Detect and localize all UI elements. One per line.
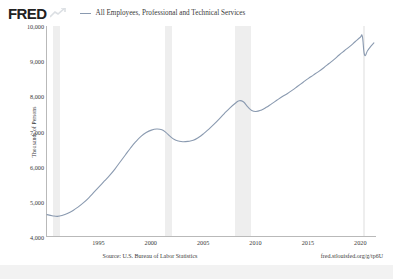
chart-legend: All Employees, Professional and Technica…: [80, 9, 245, 17]
y-axis-tick-label: 8,000: [30, 93, 44, 100]
series-path-employees: [47, 35, 374, 217]
y-axis-title: Thousands of Persons: [31, 106, 37, 157]
y-axis-tick-label: 6,000: [30, 163, 44, 170]
bottom-margin-strip: [0, 265, 393, 279]
x-axis: 199520002005201020152020: [46, 239, 376, 251]
source-note: Source: U.S. Bureau of Labor Statistics: [0, 253, 300, 259]
y-axis-tick-label: 4,000: [30, 234, 44, 241]
plot-area: [46, 26, 376, 237]
y-axis-tick-label: 5,000: [30, 198, 44, 205]
series-line-chart: [47, 26, 376, 236]
y-axis-title-holder: Thousands of Persons: [12, 26, 22, 237]
legend-series-label: All Employees, Professional and Technica…: [95, 9, 245, 17]
x-axis-tick-label: 2010: [249, 239, 261, 246]
y-axis-tick-label: 9,000: [30, 58, 44, 65]
chart-header: FRED All Employees, Professional and Tec…: [8, 4, 245, 22]
fred-trend-arrow-icon: [50, 8, 66, 19]
x-axis-tick-label: 2020: [354, 239, 366, 246]
fred-logo: FRED: [8, 6, 46, 21]
x-axis-tick-label: 1995: [92, 239, 104, 246]
fred-permalink[interactable]: fred.stlouisfed.org/g/tp6U: [321, 253, 383, 259]
x-axis-tick-label: 2015: [302, 239, 314, 246]
x-axis-tick-label: 2005: [197, 239, 209, 246]
line-swatch-icon: [80, 13, 91, 14]
x-axis-tick-label: 2000: [145, 239, 157, 246]
y-axis-tick-label: 10,000: [27, 23, 44, 30]
plot-frame: [46, 26, 376, 237]
fred-chart-container: FRED All Employees, Professional and Tec…: [0, 0, 393, 279]
